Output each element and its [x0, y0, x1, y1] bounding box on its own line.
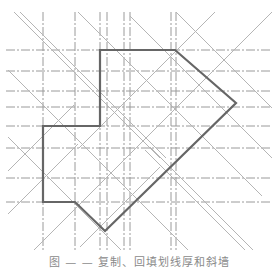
- diagonal-guide-line: [80, 167, 160, 247]
- diagonal-guide-line: [150, 147, 255, 250]
- diagonal-guide-line: [8, 105, 74, 171]
- wall-diagram: [0, 0, 279, 250]
- vertical-guide-lines: [43, 12, 176, 250]
- diagonal-guide-lines: [8, 12, 272, 250]
- figure-caption: 图 — — 复制、回填划线厚和斜墙: [0, 253, 279, 268]
- diagonal-guide-line: [14, 12, 160, 158]
- diagonal-guide-line: [145, 150, 250, 250]
